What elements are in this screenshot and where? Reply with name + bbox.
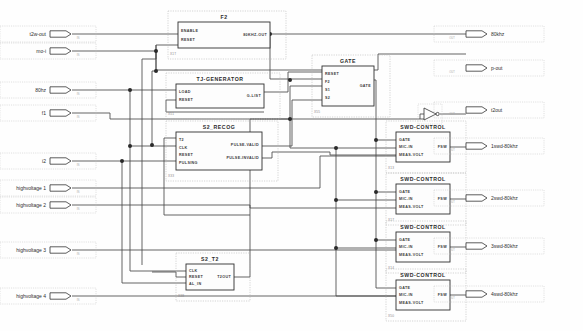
output-port-out_swd4[interactable]: 4swd-80khzOUT xyxy=(434,286,544,302)
wire-hv2-to-swd2 xyxy=(72,205,396,208)
output-port-arrow-icon xyxy=(466,143,487,149)
junction-dot xyxy=(334,146,338,150)
input-pin-label: CLK xyxy=(189,269,198,273)
input-pin-label: GATE xyxy=(399,238,411,242)
input-pin-label: MIC-IN xyxy=(399,197,413,201)
junction-dot xyxy=(154,69,158,73)
input-pin-label: RESET xyxy=(179,98,193,102)
input-port-label: 80hz xyxy=(35,87,46,93)
junction-dot xyxy=(374,238,378,242)
blocks-layer: F2ENABLERESET80KHZ-OUTX1TTJ-GENERATORLOA… xyxy=(166,11,466,321)
input-port-label: t2w-out xyxy=(30,31,47,37)
output-port-out_t2out[interactable]: t2outOUT xyxy=(434,102,544,118)
output-port-out_swd1[interactable]: 1swd-80khzOUT xyxy=(434,138,544,154)
output-port-out_swd2[interactable]: 2swd-80khzOUT xyxy=(434,190,544,206)
wire-s2t2-reset-feed xyxy=(152,272,186,277)
output-port-label: 3swd-80khz xyxy=(491,243,518,249)
wire-i2-to-s2t2-alin xyxy=(122,161,186,283)
input-pin-label: ENABLE xyxy=(181,29,198,33)
input-ports-layer: t2w-outINmo-iIN80hzINf1INi2INhighvoltage… xyxy=(0,26,96,304)
input-port-label: highvoltage 4 xyxy=(16,293,46,299)
wire-s2recog-to-gate-s2 xyxy=(262,100,322,146)
junction-dot xyxy=(334,198,338,202)
input-pin-label: LOAD xyxy=(179,90,191,94)
output-pin-label: FSW xyxy=(438,293,447,297)
input-pin-label: GATE xyxy=(399,138,411,142)
block-title: S2_RECOG xyxy=(203,124,236,130)
output-port-out_swd3[interactable]: 3swd-80khzOUT xyxy=(434,238,544,254)
output-port-label: 1swd-80khz xyxy=(491,143,518,149)
input-port-arrow-icon xyxy=(50,31,71,37)
input-port-arrow-icon xyxy=(50,87,71,93)
input-pin-label: MEAS-VOLT xyxy=(399,205,424,209)
input-port-arrow-icon xyxy=(50,247,71,253)
input-port-direction: IN xyxy=(77,53,80,57)
input-port-label: highvoltage 3 xyxy=(16,247,46,253)
block-title: TJ-GENERATOR xyxy=(196,76,243,82)
junction-dot xyxy=(374,138,378,142)
junction-dot xyxy=(128,88,132,92)
block-ref-designator: X50 xyxy=(388,314,394,318)
output-port-direction: OUT xyxy=(449,200,455,204)
output-port-label: p-out xyxy=(491,65,503,71)
schematic-drawing: F2ENABLERESET80KHZ-OUTX1TTJ-GENERATORLOA… xyxy=(0,0,583,331)
output-ports-layer: 80khzOUTp-outOUTt2outOUT1swd-80khzOUT2sw… xyxy=(434,26,544,302)
output-pin-label: FSW xyxy=(438,145,447,149)
input-port-arrow-icon xyxy=(50,158,71,164)
output-pin-label: FSW xyxy=(438,197,447,201)
block-ref-designator: X1T xyxy=(170,52,176,56)
block-title: F2 xyxy=(220,14,227,20)
input-port-direction: IN xyxy=(77,115,80,119)
block-ref-designator: X17 xyxy=(388,218,394,222)
block-title: S2_T2 xyxy=(201,256,219,262)
input-pin-label: MIC-IN xyxy=(399,245,413,249)
output-port-label: 4swd-80khz xyxy=(491,291,518,297)
output-port-direction: OUT xyxy=(449,148,455,152)
wire-mid-bus-336 xyxy=(290,119,336,296)
junction-dot xyxy=(154,49,158,53)
buffer-bubble-icon xyxy=(436,112,439,115)
output-port-direction: OUT xyxy=(449,112,455,116)
block-ref-designator: X38 xyxy=(178,294,184,298)
block-ref-designator: X51 xyxy=(168,112,174,116)
output-port-label: 80khz xyxy=(491,31,505,37)
block-title: SWD-CONTROL xyxy=(400,272,446,278)
input-pin-label: PULSING xyxy=(179,161,198,165)
input-port-direction: IN xyxy=(77,163,80,167)
output-port-direction: OUT xyxy=(449,70,455,74)
output-pin-label: T2OUT xyxy=(217,275,231,279)
output-port-arrow-icon xyxy=(466,291,487,297)
junction-dot xyxy=(334,246,338,250)
block-title: GATE xyxy=(340,58,356,64)
output-port-out_pout[interactable]: p-outOUT xyxy=(434,60,544,76)
input-port-label: highvoltage 1 xyxy=(16,185,46,191)
input-pin-label: CLK xyxy=(179,146,188,150)
output-port-arrow-icon xyxy=(466,31,487,37)
junction-dot xyxy=(288,117,292,121)
output-pin-label: FSW xyxy=(438,245,447,249)
input-pin-label: S1 xyxy=(325,88,330,92)
input-pin-label: GATE xyxy=(399,190,411,194)
block-s2-recog[interactable]: S2_RECOGT2CLKRESETPULSINGPULSE-VALIDPULS… xyxy=(166,121,278,181)
input-port-direction: IN xyxy=(77,92,80,96)
input-port-direction: IN xyxy=(77,207,80,211)
input-port-arrow-icon xyxy=(50,110,71,116)
block-ref-designator: X13 xyxy=(388,166,394,170)
junction-dot xyxy=(288,78,292,82)
junction-dot xyxy=(120,159,124,163)
block-title: SWD-CONTROL xyxy=(400,224,446,230)
wire-f2-reset-feed xyxy=(152,45,156,145)
input-port-arrow-icon xyxy=(50,202,71,208)
junction-dot xyxy=(128,144,132,148)
junction-dot xyxy=(150,143,154,147)
block-f2[interactable]: F2ENABLERESET80KHZ-OUTX1T xyxy=(168,11,286,59)
output-port-label: t2out xyxy=(491,107,503,113)
output-pin-label: 80KHZ-OUT xyxy=(243,33,267,37)
input-pin-label: MEAS-VOLT xyxy=(399,301,424,305)
input-pin-label: GATE xyxy=(399,286,411,290)
wire-moi-to-f2-reset xyxy=(72,45,178,51)
input-pin-label: MIC-IN xyxy=(399,293,413,297)
input-pin-label: RESET xyxy=(179,153,193,157)
input-pin-label: RESET xyxy=(325,72,339,76)
wire-tjgen-to-gate-reset xyxy=(264,72,322,92)
